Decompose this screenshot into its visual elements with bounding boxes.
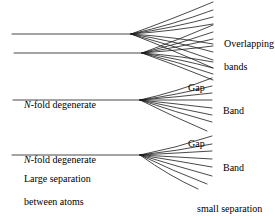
overlapping-bands-line2: bands <box>224 61 247 72</box>
large-separation-line1: Large separation <box>24 173 91 184</box>
gap-upper-text: Gap <box>188 82 205 93</box>
small-separation-line1: small separation <box>197 203 262 214</box>
n-fold-upper-symbol: N <box>24 99 31 110</box>
band-structure-diagram: Overlapping bands Gap Band N-fold degene… <box>0 0 275 219</box>
n-fold-degenerate-upper-label: N-fold degenerate <box>14 88 96 121</box>
overlapping-bands-line1: Overlapping <box>224 38 274 49</box>
level-1-ray-6 <box>131 34 213 52</box>
level-1-group <box>12 2 213 68</box>
overlapping-bands-label: Overlapping bands <box>214 26 274 84</box>
gap-upper-label: Gap <box>178 71 205 104</box>
level-1-ray-1 <box>131 2 213 34</box>
gap-lower-label: Gap <box>178 127 205 160</box>
band-lower-text: Band <box>223 162 244 173</box>
large-separation-label: Large separation between atoms <box>14 161 91 219</box>
large-separation-line2: between atoms <box>24 196 84 207</box>
band-upper-label: Band <box>213 94 244 127</box>
level-1-ray-8 <box>131 34 213 68</box>
level-4-ray-8 <box>140 155 198 189</box>
gap-lower-text: Gap <box>188 138 205 149</box>
level-2-ray-3 <box>142 39 213 53</box>
level-2-ray-5 <box>142 53 213 62</box>
small-separation-label: small separation between atoms <box>187 191 262 219</box>
band-upper-text: Band <box>223 105 244 116</box>
n-fold-upper-rest: -fold degenerate <box>31 99 96 110</box>
band-lower-label: Band <box>213 151 244 184</box>
